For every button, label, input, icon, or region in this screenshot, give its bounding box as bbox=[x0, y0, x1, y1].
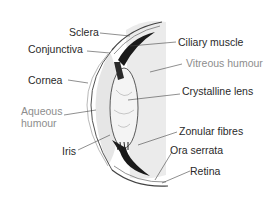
leader-cornea bbox=[68, 80, 88, 83]
crystalline-lens-shape bbox=[110, 68, 138, 148]
leader-sclera bbox=[100, 33, 130, 36]
label-crystalline-lens: Crystalline lens bbox=[182, 86, 253, 97]
label-vitreous-humour: Vitreous humour bbox=[186, 58, 263, 69]
eye-diagram bbox=[0, 0, 276, 201]
label-aqueous-humour-1: Aqueous bbox=[21, 106, 62, 117]
label-aqueous-humour-2: humour bbox=[21, 118, 57, 129]
label-conjunctiva: Conjunctiva bbox=[28, 44, 83, 55]
label-retina: Retina bbox=[190, 166, 220, 177]
leader-conjunctiva bbox=[87, 51, 110, 53]
label-sclera: Sclera bbox=[69, 27, 99, 38]
leader-retina bbox=[162, 171, 190, 183]
label-ciliary-muscle: Ciliary muscle bbox=[178, 37, 243, 48]
label-ora-serrata: Ora serrata bbox=[170, 145, 223, 156]
label-iris: Iris bbox=[62, 146, 76, 157]
label-cornea: Cornea bbox=[28, 75, 62, 86]
label-zonular-fibres: Zonular fibres bbox=[179, 126, 243, 137]
